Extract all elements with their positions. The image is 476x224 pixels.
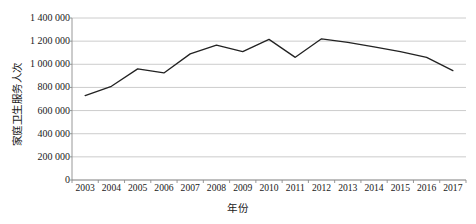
x-tick-label: 2011 [286, 183, 305, 193]
x-tick-label: 2013 [338, 183, 357, 193]
x-tick-label: 2016 [417, 183, 436, 193]
x-tick-label: 2004 [102, 183, 121, 193]
chart-figure: 家庭卫生服务人次 0200 000400 000600 000800 0001 … [0, 0, 476, 224]
x-tick-label: 2009 [233, 183, 252, 193]
x-tick-label: 2010 [259, 183, 278, 193]
x-tick-label: 2012 [312, 183, 331, 193]
gridlines [72, 18, 466, 180]
x-tick-label: 2017 [443, 183, 462, 193]
x-tick-label: 2015 [391, 183, 410, 193]
axis-lines [72, 18, 466, 180]
x-tick-label: 2007 [181, 183, 200, 193]
x-tick-label: 2006 [154, 183, 173, 193]
x-tick-label: 2008 [207, 183, 226, 193]
x-tick-label: 2003 [76, 183, 95, 193]
data-series-line [85, 39, 453, 96]
x-tick-label: 2014 [364, 183, 383, 193]
x-tick-label: 2005 [128, 183, 147, 193]
x-axis-title: 年份 [0, 200, 476, 215]
